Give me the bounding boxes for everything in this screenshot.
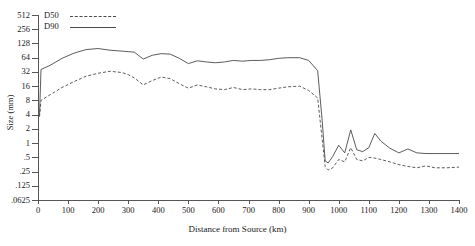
x-tick-label: 0 bbox=[36, 206, 40, 215]
x-tick-mark bbox=[158, 200, 159, 204]
x-tick-mark bbox=[68, 200, 69, 204]
series-lines bbox=[38, 15, 459, 200]
x-tick-mark bbox=[128, 200, 129, 204]
x-tick-label: 900 bbox=[302, 206, 315, 215]
x-tick-mark bbox=[399, 200, 400, 204]
x-tick-label: 1400 bbox=[451, 206, 468, 215]
y-tick-label: 1 bbox=[0, 139, 30, 148]
x-tick-mark bbox=[188, 200, 189, 204]
y-tick-mark bbox=[32, 129, 38, 130]
x-tick-label: 800 bbox=[272, 206, 285, 215]
x-tick-label: 500 bbox=[182, 206, 195, 215]
x-tick-label: 400 bbox=[152, 206, 165, 215]
y-tick-mark bbox=[32, 86, 38, 87]
y-tick-label: .125 bbox=[0, 181, 30, 190]
x-tick-mark bbox=[249, 200, 250, 204]
x-tick-label: 600 bbox=[212, 206, 225, 215]
y-tick-mark bbox=[32, 172, 38, 173]
x-tick-mark bbox=[309, 200, 310, 204]
x-tick-label: 1100 bbox=[360, 206, 377, 215]
x-tick-label: 1300 bbox=[420, 206, 437, 215]
y-tick-mark bbox=[32, 29, 38, 30]
y-tick-label: .25 bbox=[0, 167, 30, 176]
x-tick-label: 100 bbox=[62, 206, 75, 215]
y-tick-label: 64 bbox=[0, 53, 30, 62]
x-tick-label: 1000 bbox=[330, 206, 347, 215]
y-tick-label: 32 bbox=[0, 67, 30, 76]
y-tick-mark bbox=[32, 143, 38, 144]
y-tick-mark bbox=[32, 200, 38, 201]
y-tick-label: 256 bbox=[0, 25, 30, 34]
y-axis-title: Size (mm) bbox=[6, 78, 15, 148]
y-tick-mark bbox=[32, 72, 38, 73]
x-tick-mark bbox=[369, 200, 370, 204]
x-tick-label: 200 bbox=[92, 206, 105, 215]
y-tick-label: .0625 bbox=[0, 196, 30, 205]
y-tick-mark bbox=[32, 186, 38, 187]
y-tick-label: 512 bbox=[0, 11, 30, 20]
y-tick-label: .5 bbox=[0, 153, 30, 162]
y-tick-mark bbox=[32, 100, 38, 101]
series-line-d50 bbox=[40, 71, 460, 170]
y-tick-mark bbox=[32, 157, 38, 158]
y-tick-mark bbox=[32, 115, 38, 116]
x-tick-mark bbox=[339, 200, 340, 204]
x-tick-mark bbox=[459, 200, 460, 204]
x-tick-mark bbox=[279, 200, 280, 204]
x-tick-label: 1200 bbox=[390, 206, 407, 215]
plot-area bbox=[38, 15, 459, 200]
y-tick-label: 128 bbox=[0, 39, 30, 48]
x-tick-mark bbox=[218, 200, 219, 204]
y-tick-mark bbox=[32, 15, 38, 16]
grain-size-distance-chart: 5122561286432168421.5.25.125.0625 010020… bbox=[0, 0, 475, 246]
y-tick-mark bbox=[32, 58, 38, 59]
x-tick-mark bbox=[98, 200, 99, 204]
series-line-d90 bbox=[40, 49, 460, 163]
x-tick-label: 300 bbox=[122, 206, 135, 215]
x-tick-mark bbox=[38, 200, 39, 204]
y-tick-label: 16 bbox=[0, 82, 30, 91]
x-axis-title: Distance from Source (km) bbox=[0, 224, 475, 234]
x-tick-label: 700 bbox=[242, 206, 255, 215]
x-tick-mark bbox=[429, 200, 430, 204]
y-tick-mark bbox=[32, 43, 38, 44]
